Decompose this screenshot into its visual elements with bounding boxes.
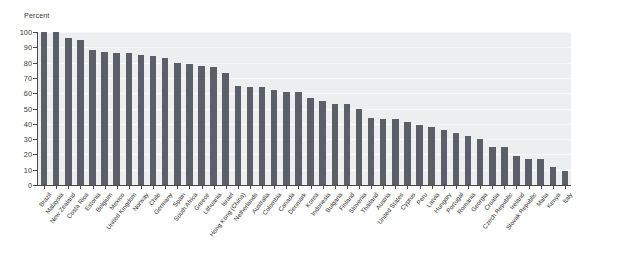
x-axis-tick bbox=[117, 186, 118, 189]
x-axis-tick bbox=[492, 186, 493, 189]
y-axis-tick-label: 90 bbox=[6, 43, 32, 52]
bar[interactable] bbox=[77, 40, 84, 185]
bar[interactable] bbox=[513, 156, 520, 185]
bar[interactable] bbox=[198, 66, 205, 185]
bar[interactable] bbox=[126, 53, 133, 185]
x-axis-tick-label: Malta bbox=[534, 191, 549, 207]
x-axis-tick bbox=[323, 186, 324, 189]
bar[interactable] bbox=[222, 73, 229, 185]
x-axis-tick-label: Thailand bbox=[359, 191, 379, 214]
bar[interactable] bbox=[259, 87, 266, 185]
bar[interactable] bbox=[489, 147, 496, 185]
x-axis-tick-label: Chile bbox=[147, 191, 161, 207]
bar[interactable] bbox=[101, 52, 108, 185]
y-axis-tick bbox=[33, 154, 37, 155]
bar[interactable] bbox=[162, 58, 169, 185]
x-axis-tick-label: Indonesia bbox=[309, 191, 331, 217]
bar[interactable] bbox=[210, 67, 217, 185]
bar[interactable] bbox=[53, 32, 60, 185]
bar[interactable] bbox=[562, 171, 569, 185]
bar[interactable] bbox=[404, 122, 411, 185]
x-axis-tick bbox=[298, 186, 299, 189]
x-axis-tick bbox=[335, 186, 336, 189]
bar[interactable] bbox=[319, 101, 326, 185]
bar-chart: Percent 0102030405060708090100 BrazilMal… bbox=[0, 0, 619, 273]
x-axis-tick-label: Ireland bbox=[508, 191, 525, 211]
bar[interactable] bbox=[441, 130, 448, 185]
bar[interactable] bbox=[550, 167, 557, 185]
y-axis-tick bbox=[33, 185, 37, 186]
x-axis-tick-label: Lithuania bbox=[201, 191, 222, 215]
x-axis-tick-label: Belgium bbox=[94, 191, 114, 213]
x-axis-tick-label: Hong Kong (China) bbox=[208, 191, 247, 238]
x-axis-tick bbox=[395, 186, 396, 189]
bar[interactable] bbox=[368, 118, 375, 185]
bar[interactable] bbox=[392, 119, 399, 185]
x-axis-tick bbox=[262, 186, 263, 189]
bar[interactable] bbox=[332, 104, 339, 185]
x-axis-tick bbox=[165, 186, 166, 189]
bar[interactable] bbox=[428, 127, 435, 185]
x-axis-tick bbox=[456, 186, 457, 189]
bar[interactable] bbox=[537, 159, 544, 185]
x-axis-tick bbox=[238, 186, 239, 189]
x-axis-tick bbox=[202, 186, 203, 189]
x-axis-tick bbox=[516, 186, 517, 189]
bar[interactable] bbox=[295, 92, 302, 185]
y-axis-tick bbox=[33, 93, 37, 94]
x-axis-tick-label: Spain bbox=[171, 191, 186, 208]
bar[interactable] bbox=[138, 55, 145, 185]
y-axis-tick bbox=[33, 170, 37, 171]
bar[interactable] bbox=[307, 98, 314, 185]
bar[interactable] bbox=[501, 147, 508, 185]
y-axis-tick-label: 80 bbox=[6, 59, 32, 68]
x-axis-tick-label: Georgia bbox=[470, 191, 489, 213]
x-axis-tick-label: Finland bbox=[337, 191, 355, 212]
bar[interactable] bbox=[356, 109, 363, 186]
x-axis-tick bbox=[529, 186, 530, 189]
bar[interactable] bbox=[41, 32, 48, 185]
bar[interactable] bbox=[186, 64, 193, 185]
y-axis-tick bbox=[33, 32, 37, 33]
bar[interactable] bbox=[416, 125, 423, 185]
y-axis-tick bbox=[33, 63, 37, 64]
bar[interactable] bbox=[65, 38, 72, 185]
x-axis-tick bbox=[141, 186, 142, 189]
x-axis-tick-label: Slovak Republic bbox=[504, 191, 537, 231]
bar[interactable] bbox=[271, 90, 278, 185]
x-axis-tick-label: Mexico bbox=[108, 191, 126, 211]
bar[interactable] bbox=[465, 136, 472, 185]
x-axis-tick bbox=[68, 186, 69, 189]
bar[interactable] bbox=[453, 133, 460, 185]
bar[interactable] bbox=[150, 56, 157, 185]
x-axis-tick bbox=[311, 186, 312, 189]
bar[interactable] bbox=[174, 63, 181, 185]
x-axis-tick-label: Portugal bbox=[445, 191, 465, 214]
x-axis-tick-label: Colombia bbox=[261, 191, 283, 216]
bar[interactable] bbox=[89, 50, 96, 185]
bar[interactable] bbox=[380, 119, 387, 185]
x-axis-tick bbox=[250, 186, 251, 189]
x-axis-tick-label: Cyprus bbox=[398, 191, 416, 211]
bar[interactable] bbox=[477, 139, 484, 185]
bar[interactable] bbox=[113, 53, 120, 185]
x-axis-tick-label: Greece bbox=[192, 191, 210, 212]
y-axis-tick-label: 60 bbox=[6, 89, 32, 98]
x-axis-tick bbox=[80, 186, 81, 189]
bar[interactable] bbox=[344, 104, 351, 185]
x-axis-tick bbox=[226, 186, 227, 189]
bar[interactable] bbox=[235, 86, 242, 185]
bar[interactable] bbox=[283, 92, 290, 185]
y-axis-tick-label: 30 bbox=[6, 135, 32, 144]
x-axis-tick-label: Hungary bbox=[432, 191, 452, 214]
x-axis-tick-label: Australia bbox=[250, 191, 271, 215]
bar[interactable] bbox=[525, 159, 532, 185]
y-axis-tick-label: 20 bbox=[6, 150, 32, 159]
x-axis-tick bbox=[504, 186, 505, 189]
bar[interactable] bbox=[247, 87, 254, 185]
x-axis-tick bbox=[44, 186, 45, 189]
x-axis-tick bbox=[56, 186, 57, 189]
x-axis-tick-label: Netherlands bbox=[232, 191, 258, 222]
x-axis-tick-label: New Zealand bbox=[49, 191, 77, 224]
x-axis-tick bbox=[371, 186, 372, 189]
